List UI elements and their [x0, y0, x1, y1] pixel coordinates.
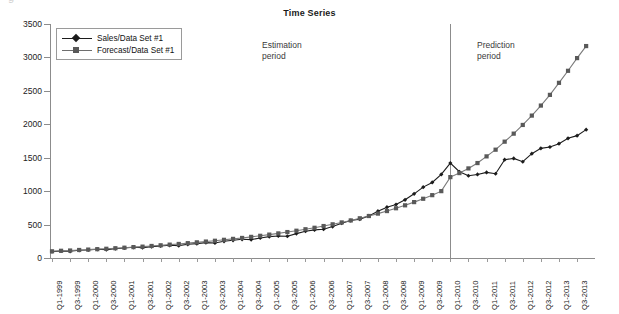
square-marker-icon: [548, 93, 552, 97]
square-marker-icon: [340, 220, 344, 224]
square-marker-icon: [77, 248, 81, 252]
series-forecast: [50, 44, 588, 253]
square-marker-icon: [521, 123, 525, 127]
legend-label-forecast: Forecast/Data Set #1: [97, 46, 174, 55]
square-marker-icon: [50, 249, 54, 253]
diamond-marker-icon: [394, 202, 398, 206]
square-marker-icon: [95, 247, 99, 251]
square-marker-icon: [530, 113, 534, 117]
square-marker-icon: [376, 212, 380, 216]
square-marker-icon: [86, 247, 90, 251]
square-marker-icon: [466, 166, 470, 170]
square-marker-icon: [484, 154, 488, 158]
square-marker-icon: [113, 246, 117, 250]
legend-item-forecast: Forecast/Data Set #1: [62, 44, 174, 56]
series-line: [52, 46, 586, 251]
diamond-marker-icon: [285, 234, 289, 238]
diamond-marker-icon: [475, 172, 479, 176]
square-marker-icon: [140, 245, 144, 249]
square-marker-icon: [475, 161, 479, 165]
diamond-marker-icon: [466, 174, 470, 178]
square-marker-icon: [249, 235, 253, 239]
series-sales: [50, 128, 588, 254]
diamond-marker-icon: [72, 34, 80, 42]
square-marker-icon: [186, 241, 190, 245]
square-marker-icon: [312, 226, 316, 230]
square-marker-icon: [448, 175, 452, 179]
square-marker-icon: [231, 237, 235, 241]
chart-legend: Sales/Data Set #1 Forecast/Data Set #1: [56, 28, 182, 60]
square-marker-icon: [394, 206, 398, 210]
figure-container: g Time Series 05001000150020002500300035…: [0, 0, 619, 314]
square-marker-icon: [104, 247, 108, 251]
square-marker-icon: [539, 103, 543, 107]
square-marker-icon: [457, 171, 461, 175]
legend-item-sales: Sales/Data Set #1: [62, 32, 174, 44]
square-marker-icon: [421, 197, 425, 201]
square-marker-icon: [557, 81, 561, 85]
square-marker-icon: [349, 218, 353, 222]
square-marker-icon: [403, 203, 407, 207]
square-marker-icon: [412, 200, 416, 204]
square-marker-icon: [149, 244, 153, 248]
square-marker-icon: [267, 233, 271, 237]
square-marker-icon: [195, 240, 199, 244]
square-marker-icon: [358, 216, 362, 220]
square-marker-icon: [439, 189, 443, 193]
square-marker-icon: [285, 230, 289, 234]
square-marker-icon: [303, 227, 307, 231]
square-marker-icon: [385, 209, 389, 213]
square-marker-icon: [367, 214, 371, 218]
legend-label-sales: Sales/Data Set #1: [97, 34, 163, 43]
diamond-marker-icon: [548, 145, 552, 149]
legend-key-forecast: [62, 45, 92, 55]
legend-key-sales: [62, 33, 92, 43]
diamond-marker-icon: [512, 156, 516, 160]
square-marker-icon: [240, 236, 244, 240]
square-marker-icon: [131, 245, 135, 249]
square-marker-icon: [213, 239, 217, 243]
series-line: [52, 130, 586, 252]
diamond-marker-icon: [484, 170, 488, 174]
square-marker-icon: [584, 44, 588, 48]
square-marker-icon: [430, 193, 434, 197]
square-marker-icon: [294, 229, 298, 233]
square-marker-icon: [575, 56, 579, 60]
square-marker-icon: [566, 69, 570, 73]
square-marker-icon: [59, 249, 63, 253]
diamond-marker-icon: [385, 205, 389, 209]
square-marker-icon: [503, 140, 507, 144]
square-marker-icon: [122, 246, 126, 250]
square-marker-icon: [258, 234, 262, 238]
square-marker-icon: [68, 248, 72, 252]
square-marker-icon: [168, 243, 172, 247]
square-marker-icon: [331, 222, 335, 226]
square-marker-icon: [177, 242, 181, 246]
square-marker-icon: [321, 224, 325, 228]
square-marker-icon: [494, 148, 498, 152]
square-marker-icon: [159, 243, 163, 247]
square-marker-icon: [73, 47, 79, 53]
square-marker-icon: [276, 231, 280, 235]
square-marker-icon: [204, 239, 208, 243]
square-marker-icon: [222, 238, 226, 242]
square-marker-icon: [512, 132, 516, 136]
